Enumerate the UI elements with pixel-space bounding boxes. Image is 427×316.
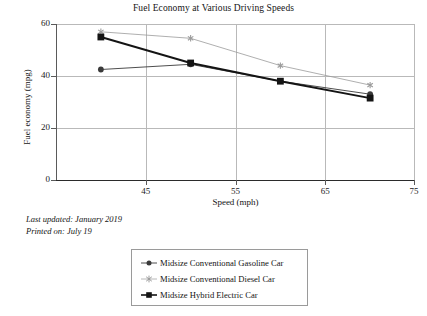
data-point-marker — [367, 95, 374, 102]
legend-label: Midsize Hybrid Electric Car — [160, 290, 258, 300]
fuel-economy-chart: Fuel Economy at Various Driving Speeds F… — [0, 0, 427, 316]
legend-item-gasoline[interactable]: Midsize Conventional Gasoline Car — [141, 255, 283, 270]
legend-label: Midsize Conventional Gasoline Car — [160, 258, 283, 268]
chart-legend: Midsize Conventional Gasoline Car Midsiz… — [131, 249, 308, 306]
series-line — [101, 32, 370, 85]
square-marker-icon — [141, 289, 157, 301]
data-point-marker — [277, 78, 284, 85]
footnotes: Last updated: January 2019 Printed on: J… — [26, 214, 122, 237]
data-point-marker — [187, 60, 194, 67]
legend-item-diesel[interactable]: Midsize Conventional Diesel Car — [141, 271, 275, 286]
data-point-marker — [98, 67, 104, 73]
data-point-marker — [97, 34, 104, 41]
circle-marker-icon — [141, 257, 157, 269]
legend-item-hybrid[interactable]: Midsize Hybrid Electric Car — [141, 287, 258, 302]
data-point-marker — [367, 82, 372, 88]
star-marker-icon — [141, 273, 157, 285]
legend-label: Midsize Conventional Diesel Car — [160, 274, 275, 284]
data-point-marker — [278, 62, 283, 68]
footnote-last-updated: Last updated: January 2019 — [26, 214, 122, 226]
footnote-printed-on: Printed on: July 19 — [26, 226, 122, 238]
